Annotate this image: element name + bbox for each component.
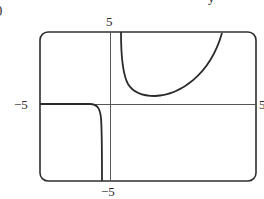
y-max-label: 5 bbox=[106, 14, 113, 29]
plot-frame bbox=[40, 32, 256, 181]
y-min-label: −5 bbox=[101, 184, 115, 199]
x-max-label: 5 bbox=[259, 97, 264, 112]
panel-label-fragment: ) bbox=[0, 2, 2, 17]
chart: ) y 5 −5 −5 5 bbox=[0, 0, 264, 199]
x-min-label: −5 bbox=[14, 97, 28, 112]
top-right-fragment: y bbox=[208, 0, 215, 5]
curve-left-branch bbox=[40, 104, 102, 181]
curve-right-branch bbox=[121, 32, 222, 96]
